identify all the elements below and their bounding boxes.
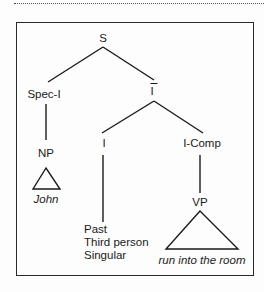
node-i-bar-label: I	[151, 85, 154, 97]
node-i-comp: I-Comp	[183, 137, 221, 150]
feature-person: Third person	[84, 236, 149, 249]
node-vp: VP	[192, 196, 207, 209]
node-np: NP	[38, 147, 54, 160]
edge-ibar-icomp	[154, 101, 203, 133]
node-spec-i: Spec-I	[27, 88, 60, 101]
feature-tense: Past	[84, 223, 149, 236]
overbar-mark	[151, 83, 158, 84]
leaf-john: John	[34, 193, 59, 206]
vp-triangle	[166, 211, 238, 249]
node-i: I	[102, 137, 105, 150]
node-s: S	[99, 32, 107, 45]
edge-s-ibar	[103, 47, 154, 80]
edge-s-spec-i	[48, 47, 103, 82]
np-triangle	[33, 168, 60, 189]
edge-ibar-i	[102, 101, 154, 133]
node-i-bar: I	[151, 83, 158, 98]
leaf-features: Past Third person Singular	[84, 223, 149, 262]
leaf-vp-yield: run into the room	[159, 254, 246, 267]
feature-number: Singular	[84, 249, 149, 262]
